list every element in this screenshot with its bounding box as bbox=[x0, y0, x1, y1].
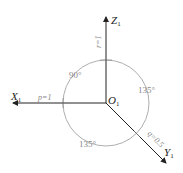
y-axis-label: Y1 bbox=[164, 146, 174, 160]
origin-label: O1 bbox=[108, 94, 120, 108]
angle-label-xz: 90° bbox=[69, 70, 82, 80]
z-axis-label: Z1 bbox=[111, 14, 121, 28]
x-axis-label: X1 bbox=[10, 90, 22, 104]
angle-label-zy: 135° bbox=[138, 85, 156, 95]
axonometric-diagram: Z1 X1 Y1 O1 r=1 p=1 q=0.5 90° 135° 135° bbox=[0, 0, 183, 173]
angle-label-xy: 135° bbox=[79, 139, 97, 149]
z-coefficient-label: r=1 bbox=[94, 35, 103, 48]
x-coefficient-label: p=1 bbox=[37, 93, 51, 102]
